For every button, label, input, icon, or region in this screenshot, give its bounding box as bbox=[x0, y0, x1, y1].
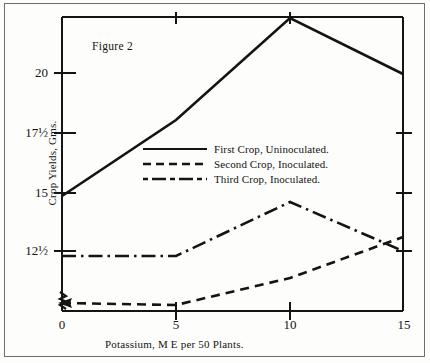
y-tick-label-17-half: 17½ bbox=[8, 125, 48, 141]
y-axis-ticks-right bbox=[396, 133, 412, 251]
x-axis-title: Potassium, M E per 50 Plants. bbox=[105, 338, 244, 350]
y-axis-title: Crop Yields, Gms. bbox=[46, 98, 58, 228]
legend-label-first-crop: First Crop, Uninoculated. bbox=[214, 143, 329, 155]
figure-caption: Figure 2 bbox=[92, 40, 133, 52]
figure-root: Figure 2 Crop Yields, Gms. 20 17½ 15 12½… bbox=[0, 0, 430, 363]
y-tick-label-12-half: 12½ bbox=[8, 243, 48, 259]
y-tick-label-20: 20 bbox=[8, 65, 48, 81]
x-tick-label-10: 10 bbox=[275, 317, 305, 333]
series-third-crop-line bbox=[62, 202, 403, 256]
legend-label-second-crop: Second Crop, Inoculated. bbox=[214, 158, 328, 170]
series-second-crop-line bbox=[62, 237, 403, 305]
legend-label-third-crop: Third Crop, Inoculated. bbox=[214, 173, 320, 185]
x-tick-label-5: 5 bbox=[161, 317, 191, 333]
legend-sample-lines bbox=[143, 149, 207, 179]
y-tick-label-15: 15 bbox=[8, 185, 48, 201]
x-tick-label-0: 0 bbox=[47, 317, 77, 333]
x-tick-label-15: 15 bbox=[389, 317, 419, 333]
